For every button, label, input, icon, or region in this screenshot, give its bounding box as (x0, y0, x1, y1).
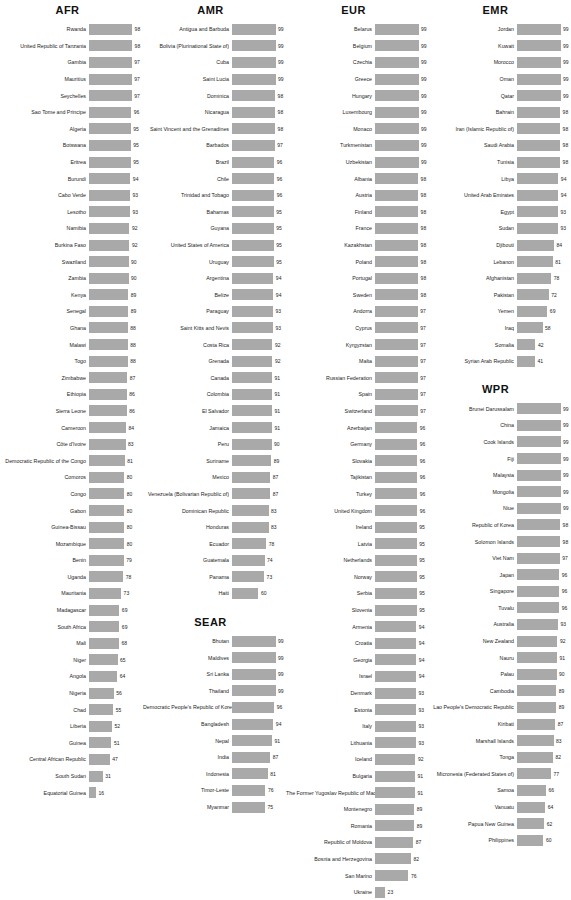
bar-value-label: 86 (127, 391, 135, 397)
bar-value-label: 97 (560, 555, 568, 561)
bar-row: Tonga82 (428, 749, 571, 766)
bar-track: 93 (375, 735, 429, 752)
bar-row: Mauritania73 (0, 585, 143, 602)
bar (375, 887, 385, 898)
bar (517, 57, 561, 68)
bar (232, 389, 272, 400)
bar (89, 40, 132, 51)
bar (517, 123, 560, 134)
bar-value-label: 99 (419, 109, 427, 115)
group-title-afr: AFR (0, 0, 143, 21)
bar (517, 306, 547, 317)
bar-value-label: 87 (270, 754, 278, 760)
bar-category-label: Namibia (0, 225, 89, 231)
bar (375, 638, 416, 649)
bar-row: Morocco99 (428, 54, 571, 71)
bar-row: Cook Islands99 (428, 434, 571, 451)
bar-row: Brunei Darussalam99 (428, 400, 571, 417)
bar-row: Kenya89 (0, 287, 143, 304)
bar-value-label: 90 (272, 441, 280, 447)
bar-row: Latvia95 (286, 535, 429, 552)
bar-category-label: Kyrgyzstan (286, 342, 375, 348)
bar (89, 273, 129, 284)
bar-row: Comoros80 (0, 469, 143, 486)
bar-track: 89 (375, 801, 429, 818)
bar-value-label: 93 (558, 225, 566, 231)
bar-value-label: 98 (418, 275, 426, 281)
bar-row: Japan96 (428, 566, 571, 583)
bar-row: Nauru91 (428, 649, 571, 666)
bar-value-label: 95 (417, 607, 425, 613)
bar-track: 98 (232, 121, 286, 138)
bar-track: 73 (232, 569, 286, 586)
bar-category-label: Poland (286, 259, 375, 265)
bar-row: Sierra Leone86 (0, 403, 143, 420)
bar-rows: Belarus99Belgium99Czechia99Greece99Hunga… (286, 21, 429, 900)
bar-track: 99 (517, 450, 571, 467)
bar-category-label: Somalia (428, 342, 517, 348)
bar-track: 86 (89, 386, 143, 403)
bar-value-label: 99 (419, 126, 427, 132)
bar-rows: Jordan99Kuwait99Morocco99Oman99Qatar99Ba… (428, 21, 571, 369)
bar-track: 96 (375, 502, 429, 519)
bar-row: Costa Rica92 (143, 336, 286, 353)
bar-value-label: 83 (126, 441, 134, 447)
bar-row: Central African Republic47 (0, 751, 143, 768)
bar-category-label: Brazil (143, 159, 232, 165)
bar (517, 240, 554, 251)
bar (232, 24, 276, 35)
bar-row: Uzbekistan99 (286, 154, 429, 171)
bar-category-label: Libya (428, 176, 517, 182)
bar-rows: Bhutan99Maldives99Sri Lanka99Thailand99D… (143, 633, 286, 816)
bar-row: Turkmenistan99 (286, 137, 429, 154)
bar-row: Zambia90 (0, 270, 143, 287)
bar (232, 140, 275, 151)
bar-value-label: 55 (113, 707, 121, 713)
bar (517, 140, 560, 151)
bar-category-label: Chad (0, 707, 89, 713)
bar-track: 99 (375, 21, 429, 38)
bar-row: Armenia94 (286, 618, 429, 635)
bar-value-label: 94 (273, 275, 281, 281)
bar-track: 64 (517, 799, 571, 816)
bar-value-label: 97 (132, 59, 140, 65)
bar-value-label: 99 (561, 26, 569, 32)
bar-value-label: 95 (417, 557, 425, 563)
bar-category-label: United Kingdom (286, 508, 375, 514)
bar (232, 422, 272, 433)
bar-category-label: Bahrain (428, 109, 517, 115)
bar (517, 652, 557, 663)
bar-category-label: Mali (0, 640, 89, 646)
bar-row: Trinidad and Tobago96 (143, 187, 286, 204)
bar-row: Grenada92 (143, 353, 286, 370)
bar-category-label: Ireland (286, 524, 375, 530)
bar-value-label: 95 (274, 209, 282, 215)
bar (89, 256, 129, 267)
bar-track: 94 (375, 618, 429, 635)
bar-track: 91 (517, 649, 571, 666)
bar-track: 78 (89, 569, 143, 586)
bar-track: 99 (517, 434, 571, 451)
bar-track: 73 (89, 585, 143, 602)
chart-column-3: EURBelarus99Belgium99Czechia99Greece99Hu… (286, 0, 429, 817)
bar-track: 98 (517, 121, 571, 138)
group-title-emr: EMR (420, 0, 571, 21)
bar-track: 99 (232, 633, 286, 650)
bar-category-label: Iraq (428, 325, 517, 331)
bar-track: 99 (232, 666, 286, 683)
bar-track: 94 (232, 287, 286, 304)
bar (232, 107, 275, 118)
bar (375, 157, 419, 168)
bar-category-label: Uganda (0, 574, 89, 580)
bar-track: 92 (232, 336, 286, 353)
bar-track: 99 (375, 87, 429, 104)
bar (375, 322, 418, 333)
bar-row: Estonia93 (286, 701, 429, 718)
bar-value-label: 95 (131, 159, 139, 165)
bar-row: Indonesia81 (143, 766, 286, 783)
bar (232, 685, 276, 696)
bar-category-label: Djibouti (428, 242, 517, 248)
bar-track: 72 (517, 287, 571, 304)
bar (375, 837, 413, 848)
bar-value-label: 92 (272, 342, 280, 348)
